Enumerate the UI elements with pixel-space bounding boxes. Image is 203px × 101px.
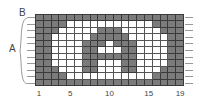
x-tick-label: 5 (68, 89, 72, 98)
x-tick-label: 10 (105, 89, 114, 98)
row-tick (27, 63, 35, 64)
row-tick (27, 50, 35, 51)
row-tick (185, 30, 193, 31)
chart-grid (35, 14, 184, 86)
grid-cell (106, 80, 114, 86)
grid-cell (122, 80, 130, 86)
grid-cell (98, 80, 106, 86)
right-row-ticks (185, 14, 193, 86)
row-tick (27, 30, 35, 31)
x-tick-label: 15 (144, 89, 153, 98)
row-tick (27, 70, 35, 71)
grid-cell (129, 80, 137, 86)
grid-cell (44, 80, 52, 86)
left-row-ticks (27, 14, 35, 86)
row-tick (185, 76, 193, 77)
grid-cell (153, 80, 161, 86)
grid-cell (176, 80, 184, 86)
row-tick (27, 43, 35, 44)
grid-cell (91, 80, 99, 86)
row-tick (27, 57, 35, 58)
grid-cell (114, 80, 122, 86)
row-tick (185, 70, 193, 71)
row-tick (185, 24, 193, 25)
label-b: B (19, 7, 26, 18)
row-tick (185, 43, 193, 44)
row-tick (185, 63, 193, 64)
grid-cell (137, 80, 145, 86)
row-tick (185, 57, 193, 58)
grid-cell (161, 80, 169, 86)
row-tick (27, 76, 35, 77)
row-tick (27, 17, 35, 18)
row-tick (185, 17, 193, 18)
grid-cell (83, 80, 91, 86)
x-tick-label: 19 (176, 89, 185, 98)
row-tick (27, 83, 35, 84)
grid-cell (52, 80, 60, 86)
grid-cell (36, 80, 44, 86)
row-tick (185, 83, 193, 84)
x-tick-label: 1 (37, 89, 41, 98)
row-tick (185, 37, 193, 38)
row-tick (27, 37, 35, 38)
grid-cell (168, 80, 176, 86)
grid-cell (59, 80, 67, 86)
row-tick (27, 24, 35, 25)
grid-cell (75, 80, 83, 86)
row-tick (185, 50, 193, 51)
grid-cell (145, 80, 153, 86)
grid-cell (67, 80, 75, 86)
label-a: A (9, 43, 16, 54)
